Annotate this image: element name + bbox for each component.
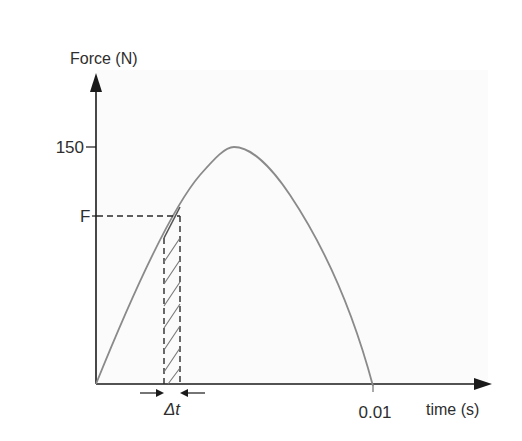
chart-svg: 150 Force (N) 0.01 time (s) F Δt [0,0,522,441]
y-axis-title: Force (N) [70,50,138,67]
plot-background [97,70,488,384]
y-tick-label-150: 150 [56,138,84,157]
f-label: F [80,207,90,226]
arrow-left-icon [180,389,188,397]
delta-t-label: Δt [163,400,181,419]
x-axis-title: time (s) [426,401,479,418]
delta-t-arrows [140,389,205,397]
x-tick-label-0.01: 0.01 [358,403,391,422]
arrow-right-icon [156,389,164,397]
